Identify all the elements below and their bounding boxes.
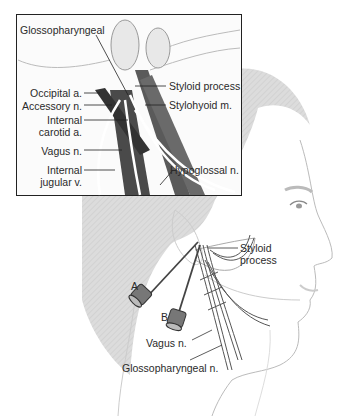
label-glossopharyngeal-inset: Glossopharyngeal <box>20 24 105 36</box>
label-needle-a: A <box>131 280 138 292</box>
label-styloid-line2: process <box>240 254 277 266</box>
label-stylohyoid-muscle: Stylohyoid m. <box>169 99 232 111</box>
label-internal-jugular-line1: Internal <box>20 164 82 176</box>
label-internal-carotid-line2: carotid a. <box>20 126 82 138</box>
label-styloid-process-inset: Styloid process <box>169 80 240 92</box>
label-occipital-artery: Occipital a. <box>20 87 82 99</box>
label-needle-b: B <box>161 311 168 323</box>
label-styloid-line1: Styloid <box>240 242 272 254</box>
inset-anatomy-illustration <box>0 0 353 416</box>
label-accessory-nerve: Accessory n. <box>16 100 82 112</box>
label-hypoglossal-nerve: Hypoglossal n. <box>170 164 239 176</box>
label-glossopharyngeal-main: Glossopharyngeal n. <box>122 362 218 374</box>
label-vagus-nerve-inset: Vagus n. <box>20 145 82 157</box>
label-internal-jugular-line2: jugular v. <box>20 176 82 188</box>
label-internal-carotid-line1: Internal <box>20 114 82 126</box>
anatomy-figure: Glossopharyngeal Occipital a. Accessory … <box>0 0 353 416</box>
label-vagus-nerve-main: Vagus n. <box>146 337 187 349</box>
